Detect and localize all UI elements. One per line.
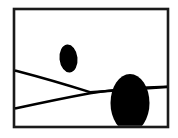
- large-ellipse: [111, 74, 150, 132]
- figure-svg: [0, 0, 178, 138]
- figure-canvas: [0, 0, 178, 138]
